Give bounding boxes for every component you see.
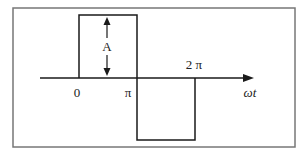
square-wave-diagram: A 0 π 2 π ωt (0, 0, 300, 154)
tick-label-0: 0 (74, 85, 81, 100)
tick-label-2pi: 2 π (186, 57, 203, 72)
amplitude-label: A (102, 39, 112, 54)
tick-label-pi: π (125, 85, 132, 100)
axis-label-omega-t: ωt (244, 85, 257, 100)
